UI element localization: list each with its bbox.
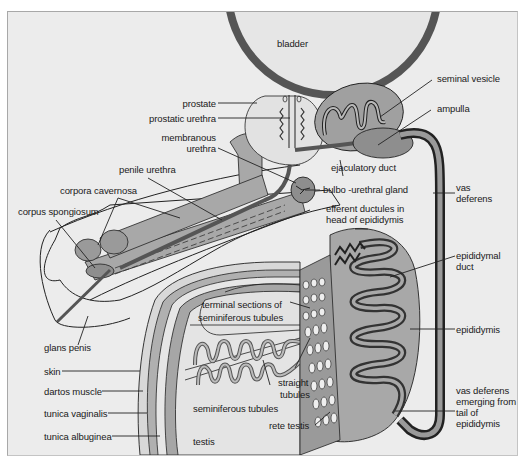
bladder-shape [228,0,438,95]
label-terminal-sections-line2: seminiferous tubules [198,312,283,323]
label-bladder: bladder [277,38,308,49]
label-efferent-ductules-line2: head of epididymis [326,214,403,225]
label-vas-emerging-line3: tail of [456,407,478,418]
label-straight-tubules-line2: tubules [280,389,310,400]
label-membranous-urethra-line2: urethra [187,143,216,154]
label-vas-deferens-line2: deferens [456,193,492,204]
label-glans-penis: glans penis [44,342,91,353]
label-vas-emerging-line2: emerging from [456,396,516,407]
label-epididymal-duct-line1: epididymal [456,250,500,261]
label-ejaculatory-duct: ejaculatory duct [331,162,396,173]
label-vas-emerging-line1: vas deferens [456,385,509,396]
label-epididymis: epididymis [456,324,500,335]
label-terminal-sections-line1: terminal sections of [202,299,282,310]
label-tunica-albuginea: tunica albuginea [44,431,112,442]
label-vas-deferens-line1: vas [456,182,470,193]
label-seminal-vesicle: seminal vesicle [437,73,500,84]
label-tunica-vaginalis: tunica vaginalis [44,408,107,419]
label-efferent-ductules-line1: efferent ductules in [326,203,404,214]
label-corpus-spongiosum: corpus spongiosum [18,206,99,217]
label-epididymal-duct-line2: duct [456,261,474,272]
label-vas-emerging-line4: epididymis [456,418,500,429]
label-straight-tubules-line1: straight [278,377,308,388]
label-prostatic-urethra: prostatic urethra [149,113,216,124]
label-skin: skin [44,366,61,377]
label-testis: testis [193,436,215,447]
label-corpora-cavernosa: corpora cavernosa [60,185,137,196]
label-rete-testis: rete testis [269,420,309,431]
label-seminiferous-tubules: seminiferous tubules [193,403,278,414]
label-bulbo-urethral-gland: bulbo -urethral gland [323,184,408,195]
label-dartos-muscle: dartos muscle [44,386,102,397]
label-membranous-urethra-line1: membranous [162,132,216,143]
label-ampulla: ampulla [437,103,470,114]
label-penile-urethra: penile urethra [119,164,176,175]
label-prostate: prostate [182,98,216,109]
